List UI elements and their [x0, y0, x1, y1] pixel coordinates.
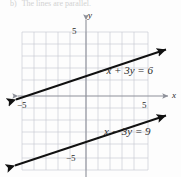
coordinate-plane [0, 0, 181, 177]
x-axis-label: x [172, 90, 176, 100]
y-axis-tick-5: 5 [72, 26, 77, 36]
grid-vertical-lines [22, 32, 148, 170]
equation-label-upper: −x + 3y = 6 [99, 64, 153, 76]
y-axis-tick-minus5: −5 [66, 153, 76, 163]
x-axis-tick-minus5: −5 [17, 100, 27, 110]
x-axis-tick-5: 5 [142, 100, 147, 110]
y-axis-label: y [88, 10, 92, 20]
graph-figure: b)The lines are parallel. [0, 0, 181, 177]
equation-label-lower: x − 3y = 9 [104, 125, 151, 137]
grid-horizontal-lines [22, 32, 148, 170]
